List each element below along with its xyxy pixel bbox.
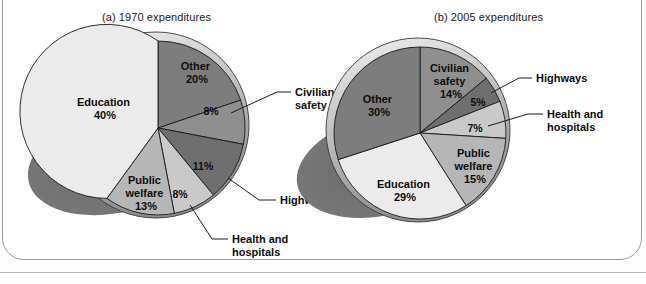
chart-panel-2005: (b) 2005 expenditures <box>323 0 646 284</box>
chart-panel-1970: (a) 1970 expenditures <box>0 0 323 284</box>
pie-svg-1970: Other 20% Education 40% Public welfare 1… <box>0 0 323 284</box>
pie-svg-2005: Civilian safety 14% Other 30% Education … <box>323 0 646 284</box>
pie-label-civilian-safety-pct-1970: 8% <box>203 105 219 117</box>
leader-line-highways-1970 <box>228 178 276 200</box>
figure-root: (a) 1970 expenditures <box>0 0 646 284</box>
callout-health-hospitals-2005: Health and hospitals <box>547 108 606 133</box>
callout-highways-2005: Highways <box>536 72 587 84</box>
pie-label-highways-pct-1970: 11% <box>193 160 214 172</box>
leader-line-health-hospitals-1970 <box>190 205 228 239</box>
pie-label-health-hospitals-pct-2005: 7% <box>467 122 483 134</box>
pie-label-health-hospitals-pct-1970: 8% <box>172 188 188 200</box>
pie-label-highways-pct-2005: 5% <box>470 96 486 108</box>
callout-health-hospitals-1970: Health and hospitals <box>232 233 291 258</box>
